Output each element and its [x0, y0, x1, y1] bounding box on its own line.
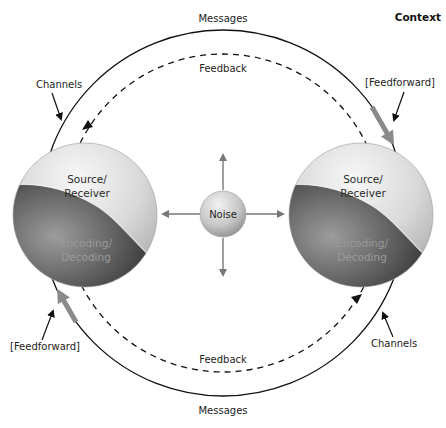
- left-sphere-encoding-label-1: Encoding/: [60, 237, 112, 249]
- left-sphere-source-label-2: Receiver: [64, 187, 110, 199]
- channels-label-left: Channels: [36, 79, 82, 90]
- feedback-label-top: Feedback: [199, 63, 247, 74]
- channels-pointer-right: [383, 313, 393, 337]
- noise-label: Noise: [209, 209, 237, 220]
- right-sphere-source-receiver: [286, 143, 436, 300]
- right-sphere-source-label-2: Receiver: [340, 187, 386, 199]
- right-sphere-source-label-1: Source/: [343, 173, 383, 185]
- feedforward-label-right: [Feedforward]: [365, 77, 435, 88]
- right-sphere-encoding-label-2: Decoding: [337, 251, 387, 263]
- right-sphere-encoding-label-1: Encoding/: [336, 237, 388, 249]
- communication-model-diagram: Context Messages Feedback Feedback Messa…: [0, 0, 446, 428]
- messages-label-bottom: Messages: [198, 405, 247, 416]
- feedforward-label-left: [Feedforward]: [10, 341, 80, 352]
- feedforward-arrow-left: [60, 294, 76, 322]
- feedforward-pointer-left: [42, 311, 53, 340]
- feedback-arrowhead-left: [82, 120, 93, 130]
- feedforward-arrow-right: [372, 107, 391, 140]
- channels-pointer-left: [52, 93, 61, 119]
- feedforward-pointer-right: [394, 92, 404, 120]
- context-title: Context: [395, 11, 441, 23]
- left-sphere-encoding-label-2: Decoding: [61, 251, 111, 263]
- left-sphere-source-label-1: Source/: [67, 173, 107, 185]
- feedback-arrowhead-right: [351, 294, 362, 304]
- feedback-label-bottom: Feedback: [199, 354, 247, 365]
- messages-label-top: Messages: [198, 13, 247, 24]
- channels-label-right: Channels: [371, 338, 417, 349]
- left-sphere-source-receiver: [10, 143, 160, 300]
